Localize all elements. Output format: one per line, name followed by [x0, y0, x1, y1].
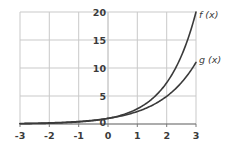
x-tick-label-neg3: -3	[11, 131, 29, 141]
x-tick-label-3: 3	[187, 131, 205, 141]
x-tick-label-2: 2	[158, 131, 176, 141]
y-tick-label-20: 20	[84, 8, 106, 18]
x-tick-label-neg1: -1	[70, 131, 88, 141]
y-tick-label-10: 10	[84, 64, 106, 74]
y-tick-label-0: 0	[84, 118, 106, 128]
y-tick-label-5: 5	[84, 92, 106, 102]
curve-label-f: f (x)	[199, 9, 218, 20]
curve-label-g: g (x)	[199, 54, 221, 65]
y-tick-label-15: 15	[84, 36, 106, 46]
x-tick-label-neg2: -2	[40, 131, 58, 141]
exponential-functions-chart: 20 15 10 5 0 -3 -2 -1 0 1 2 3 f (x) g (x…	[0, 0, 234, 158]
x-tick-label-0: 0	[99, 131, 117, 141]
x-tick-label-1: 1	[128, 131, 146, 141]
